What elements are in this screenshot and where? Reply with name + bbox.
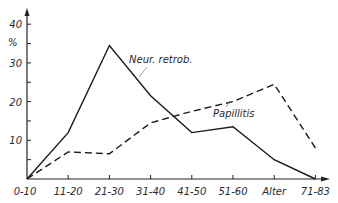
line-chart: 10203040 0-1011-2021-3031-4041-5051-60Al…	[0, 0, 338, 203]
x-axis-arrow-icon	[321, 177, 330, 182]
series-papillitis-line	[27, 84, 315, 179]
x-tick-label: 21-30	[95, 186, 124, 197]
series-neur-retrob-line	[27, 46, 315, 180]
x-tick-label: 41-50	[177, 186, 206, 197]
x-tick-label: 51-60	[218, 186, 247, 197]
x-tick-label: 71-83	[301, 186, 330, 197]
series-label-neur-retrob: Neur. retrob.	[129, 54, 192, 65]
y-tick-label: 30	[9, 58, 22, 69]
x-tick-label: 11-20	[54, 186, 83, 197]
y-tick-label: 40	[9, 19, 22, 30]
leader-line-neur-retrob	[139, 67, 147, 77]
series-label-papillitis: Papillitis	[213, 108, 255, 119]
y-tick-label: 10	[9, 135, 22, 146]
leader-line-papillitis	[226, 101, 230, 107]
y-unit-label: %	[8, 37, 18, 48]
chart-canvas: 10203040 0-1011-2021-3031-4041-5051-60Al…	[0, 0, 338, 203]
x-tick-label: Alter	[261, 186, 287, 197]
x-ticks: 0-1011-2021-3031-4041-5051-60Alter71-83	[14, 175, 330, 197]
y-tick-label: 20	[9, 97, 22, 108]
x-tick-label: 0-10	[14, 186, 37, 197]
y-axis-arrow-icon	[25, 8, 30, 16]
x-tick-label: 31-40	[136, 186, 165, 197]
